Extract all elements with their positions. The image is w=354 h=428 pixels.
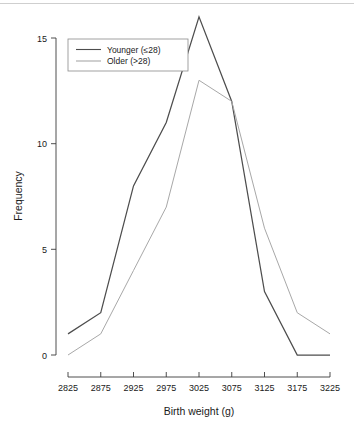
legend-label-younger: Younger (≤28) <box>107 45 161 55</box>
x-tick-label-3025: 3025 <box>189 383 209 393</box>
x-tick-label-2825: 2825 <box>58 383 78 393</box>
y-axis-title: Frequency <box>12 170 24 220</box>
chart-figure: 15 10 5 0 Frequency 2825 2875 2925 2975 … <box>0 0 354 428</box>
frequency-polygon-chart: 15 10 5 0 Frequency 2825 2875 2925 2975 … <box>0 0 354 428</box>
x-axis: 2825 2875 2925 2975 3025 3075 3125 3175 … <box>58 372 340 417</box>
x-tick-label-3125: 3125 <box>254 383 274 393</box>
y-tick-label-0: 0 <box>42 351 47 361</box>
x-tick-label-2875: 2875 <box>91 383 111 393</box>
x-tick-label-3175: 3175 <box>287 383 307 393</box>
series-line-older <box>68 80 330 355</box>
chart-legend: Younger (≤28) Older (>28) <box>68 39 188 71</box>
y-tick-label-10: 10 <box>37 139 47 149</box>
x-tick-label-3075: 3075 <box>222 383 242 393</box>
x-tick-label-3225: 3225 <box>320 383 340 393</box>
x-tick-label-2975: 2975 <box>156 383 176 393</box>
legend-label-older: Older (>28) <box>107 56 150 66</box>
y-axis: 15 10 5 0 Frequency <box>12 34 56 361</box>
x-tick-label-2925: 2925 <box>123 383 143 393</box>
x-axis-title: Birth weight (g) <box>164 405 235 417</box>
y-tick-label-5: 5 <box>42 245 47 255</box>
y-tick-label-15: 15 <box>37 34 47 44</box>
